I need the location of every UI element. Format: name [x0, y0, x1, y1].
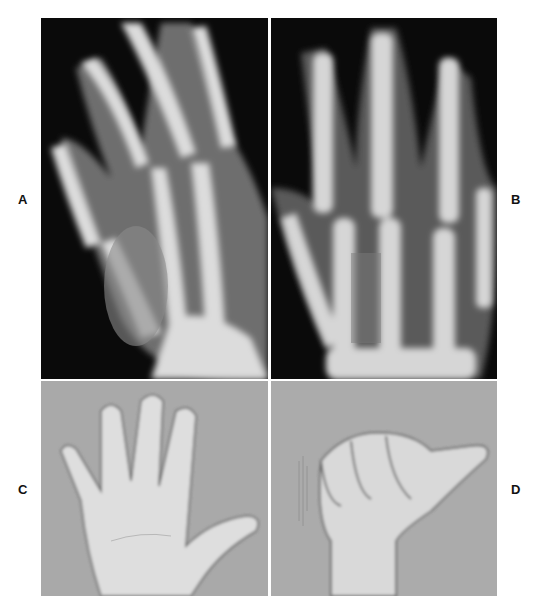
panel-label-d: D	[511, 482, 520, 497]
xray-pa-image	[271, 18, 497, 379]
interosseous-space	[351, 253, 381, 343]
panel-label-b: B	[511, 192, 520, 207]
panel-label-a: A	[18, 192, 27, 207]
xray-oblique-image	[41, 18, 268, 379]
panel-label-c: C	[18, 482, 27, 497]
figure-grid	[41, 18, 497, 596]
open-palm-image	[41, 381, 268, 596]
panel-a-oblique-xray	[41, 18, 268, 379]
fist-thumb-image	[271, 381, 497, 596]
panel-c-open-palm-photo	[41, 381, 268, 596]
panel-d-fist-thumb-photo	[271, 381, 497, 596]
panel-b-pa-xray	[271, 18, 497, 379]
palm-soft-tissue	[104, 226, 168, 346]
